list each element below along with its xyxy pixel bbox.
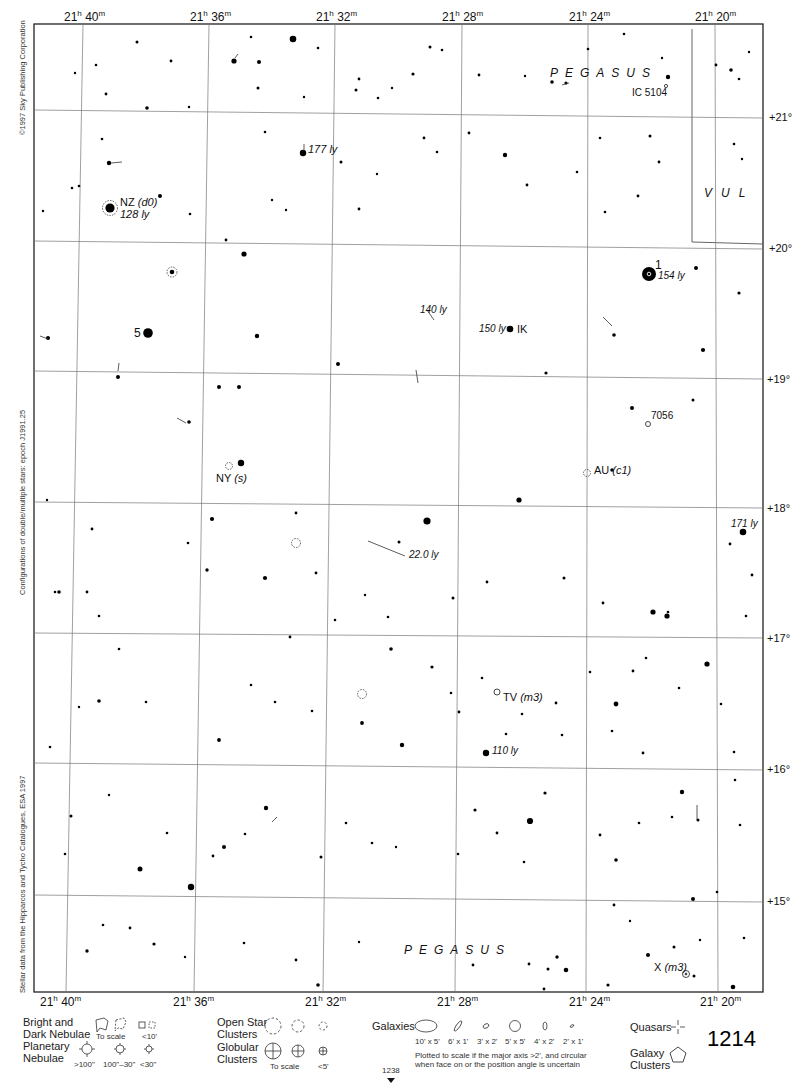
object-label-7056: 7056 (651, 410, 673, 421)
distance-label-154: 154 ly (658, 270, 685, 281)
ra-label-bottom-2140: 21h 40m (40, 994, 81, 1009)
data-source-note: Stellar data from the Hipparcos and Tych… (18, 776, 27, 994)
star-label-ik: IK (517, 323, 527, 335)
variable-star-rings (103, 201, 591, 699)
adjacent-page-link[interactable]: 1238 (382, 1065, 400, 1083)
galaxy-size-1: 10' x 5' (415, 1036, 440, 1048)
dec-label-19: +19° (767, 373, 790, 385)
planetary-nebula-icons (75, 1040, 160, 1058)
constellation-pegasus-bottom: PEGASUS (404, 943, 511, 957)
epoch-note: Configurations of double/multiple stars:… (18, 410, 27, 595)
copyright-text: ©1997 Sky Publishing Corporation (18, 20, 27, 135)
ra-label-top-2132: 21h 32m (316, 9, 357, 24)
distance-label-171: 171 ly (731, 518, 758, 529)
dec-label-18: +18° (767, 502, 790, 514)
star-label-5: 5 (134, 326, 141, 340)
distance-label-140: 140 ly (420, 304, 447, 315)
page-number: 1214 (707, 1026, 756, 1052)
galaxy-size-3: 3' x 2' (477, 1036, 497, 1048)
planetary-size-large: >100" (74, 1059, 95, 1071)
galaxy-cluster-icon (669, 1046, 687, 1063)
ra-label-bottom-2124: 21h 24m (569, 994, 610, 1009)
distance-label-128: 128 ly (120, 208, 149, 220)
star-label-ny: NY (s) (216, 472, 247, 484)
ra-label-bottom-2132: 21h 32m (305, 994, 346, 1009)
distance-label-177: 177 ly (308, 143, 337, 155)
galaxy-size-2: 6' x 1' (448, 1036, 468, 1048)
ra-label-bottom-2120: 21h 20m (700, 994, 741, 1009)
constellation-pegasus-top: PEGASUS (550, 66, 657, 80)
dec-label-17: +17° (767, 632, 790, 644)
galaxy-size-5: 4' x 2' (534, 1036, 554, 1048)
planetary-size-mid: 100"–30" (103, 1059, 135, 1071)
globular-small-label: <5' (318, 1061, 329, 1073)
dec-label-16: +16° (767, 763, 790, 775)
arrow-down-icon (387, 1078, 395, 1083)
deep-sky-objects (494, 84, 690, 977)
proper-motion-lines (40, 54, 697, 822)
legend-galaxies: Galaxies (372, 1020, 415, 1032)
distance-label-110: 110 ly (492, 745, 518, 756)
constellation-boundary (692, 29, 763, 244)
galaxy-icons (414, 1018, 584, 1034)
ra-label-top-2128: 21h 28m (442, 9, 483, 24)
ra-label-top-2140: 21h 40m (64, 9, 105, 24)
ra-label-bottom-2128: 21h 28m (437, 994, 478, 1009)
constellation-vul: VUL (704, 186, 754, 200)
galaxies-note: Plotted to scale if the major axis >2', … (415, 1051, 590, 1069)
legend-nebulae: Bright and Dark Nebulae (23, 1016, 93, 1040)
dec-label-15: +15° (767, 895, 790, 907)
open-cluster-icons (264, 1016, 334, 1038)
ra-label-top-2136: 21h 36m (190, 9, 231, 24)
quasar-icon (671, 1020, 685, 1034)
star-label-nz: NZ (d0) (120, 196, 157, 208)
ra-label-top-2120: 21h 20m (695, 9, 736, 24)
ra-grid (66, 24, 718, 992)
globular-to-scale-label: To scale (270, 1061, 299, 1073)
dec-label-20: +20° (769, 242, 792, 254)
object-label-ic5104: IC 5104 (632, 87, 667, 98)
galaxy-size-6: 2' x 1' (563, 1036, 583, 1048)
distance-label-22: 22.0 ly (409, 549, 438, 560)
chart-frame (34, 24, 763, 992)
planetary-size-small: <30" (140, 1059, 156, 1071)
distance-label-150: 150 ly (479, 323, 506, 334)
star-label-x: X (m3) (654, 961, 687, 973)
dec-label-21: +21° (769, 111, 792, 123)
galaxy-size-4: 5' x 5' (505, 1036, 525, 1048)
star-chart (0, 0, 809, 1089)
ra-label-bottom-2136: 21h 36m (173, 994, 214, 1009)
stars (42, 33, 754, 991)
star-label-tv: TV (m3) (503, 691, 543, 703)
globular-cluster-icons (264, 1040, 334, 1062)
dec-grid (34, 110, 763, 902)
star-label-au: AU (c1) (594, 464, 631, 476)
legend-quasars: Quasars (630, 1021, 672, 1033)
ra-label-top-2124: 21h 24m (569, 9, 610, 24)
